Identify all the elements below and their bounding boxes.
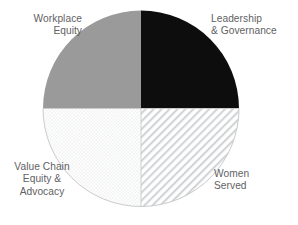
pie-label-workplace-equity: Workplace Equity [4,13,82,38]
pie-label-leadership-governance: Leadership & Governance [211,13,298,38]
pie-label-women-served: Women Served [214,168,296,193]
pie-chart: Workplace Equity Leadership & Governance… [0,0,298,225]
pie-label-value-chain-equity-advocacy: Value Chain Equity & Advocacy [2,161,82,198]
